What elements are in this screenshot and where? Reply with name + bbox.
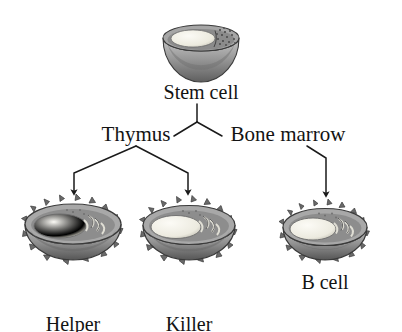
helper-t-cell-label: Helper T cell bbox=[46, 272, 100, 332]
b-cell-icon bbox=[279, 201, 371, 265]
edge-fork-to-thymus bbox=[174, 122, 197, 136]
edge-fork-to-bone-marrow bbox=[197, 122, 222, 136]
b-cell-node[interactable] bbox=[279, 201, 371, 265]
stem-cell-node[interactable] bbox=[158, 21, 244, 83]
helper-t-cell-icon bbox=[21, 196, 125, 266]
diagram-canvas: Stem cell Thymus Bone marrow bbox=[0, 0, 402, 332]
killer-t-cell-icon bbox=[139, 198, 239, 266]
branch-label-thymus: Thymus bbox=[102, 123, 171, 145]
helper-t-cell-node[interactable] bbox=[21, 196, 125, 266]
branch-label-bone-marrow: Bone marrow bbox=[231, 123, 346, 145]
edge-bone-marrow-to-b-cell bbox=[307, 146, 326, 194]
killer-t-cell-node[interactable] bbox=[139, 198, 239, 266]
b-cell-label: B cell bbox=[301, 272, 348, 293]
killer-t-cell-label: Killer T cell bbox=[166, 272, 213, 332]
stem-cell-label: Stem cell bbox=[164, 82, 239, 103]
edge-thymus-to-killer-t-cell bbox=[136, 146, 188, 192]
killer-t-cell-label-line1: Killer bbox=[166, 314, 213, 332]
helper-t-cell-label-line1: Helper bbox=[46, 314, 100, 332]
stem-cell-icon bbox=[158, 21, 244, 83]
edge-thymus-to-helper-t-cell bbox=[74, 146, 136, 192]
